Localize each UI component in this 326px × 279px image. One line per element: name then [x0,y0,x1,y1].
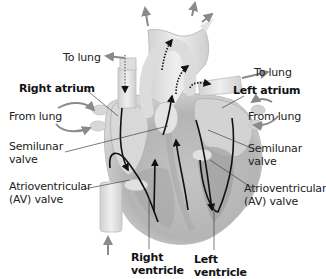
label-left-atrium: Left atrium [233,84,300,97]
label-av-valve-left: Atrioventricular [9,180,91,193]
label-from-lung-left: From lung [9,110,62,123]
label-av-valve-right: Atrioventricular [244,182,326,195]
label-av-valve-right-2: (AV) valve [244,195,298,208]
label-semilunar-right-2: valve [248,155,277,168]
label-semilunar-left-2: valve [9,153,38,166]
label-semilunar-left: Semilunar [9,140,63,153]
label-semilunar-right: Semilunar [248,142,302,155]
label-right-ventricle: Right [131,251,163,264]
label-right-atrium: Right atrium [19,82,95,95]
label-left-ventricle: Left [194,253,218,266]
label-right-ventricle-2: ventricle [131,264,184,277]
label-to-lung-left: To lung [63,51,101,64]
label-left-ventricle-2: ventricle [194,266,247,279]
label-to-lung-right: To lung [254,66,292,79]
label-from-lung-right: From lung [248,110,301,123]
label-av-valve-left-2: (AV) valve [9,193,63,206]
